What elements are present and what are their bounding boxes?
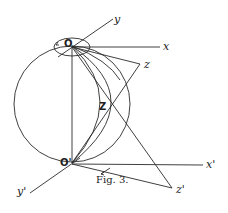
line-z-to-Oprime — [72, 64, 140, 163]
label-x-prime: x' — [206, 158, 215, 171]
label-Z: Z — [99, 101, 106, 112]
label-O: O — [64, 38, 73, 49]
figure-3-diagram: O y x z Z O' x' z' y' Fig. 3. — [0, 0, 228, 213]
label-y: y — [113, 13, 121, 26]
axis-y-prime — [30, 158, 80, 193]
label-y-prime: y' — [16, 185, 26, 198]
label-O-prime: O' — [60, 157, 72, 168]
meridian-arc-1 — [72, 46, 100, 163]
figure-caption: Fig. 3. — [96, 174, 128, 185]
line-O-to-zprime — [72, 47, 172, 188]
label-z-prime: z' — [175, 183, 185, 196]
label-z: z — [143, 58, 150, 71]
axis-x-prime — [72, 164, 203, 165]
label-x: x — [163, 40, 170, 53]
